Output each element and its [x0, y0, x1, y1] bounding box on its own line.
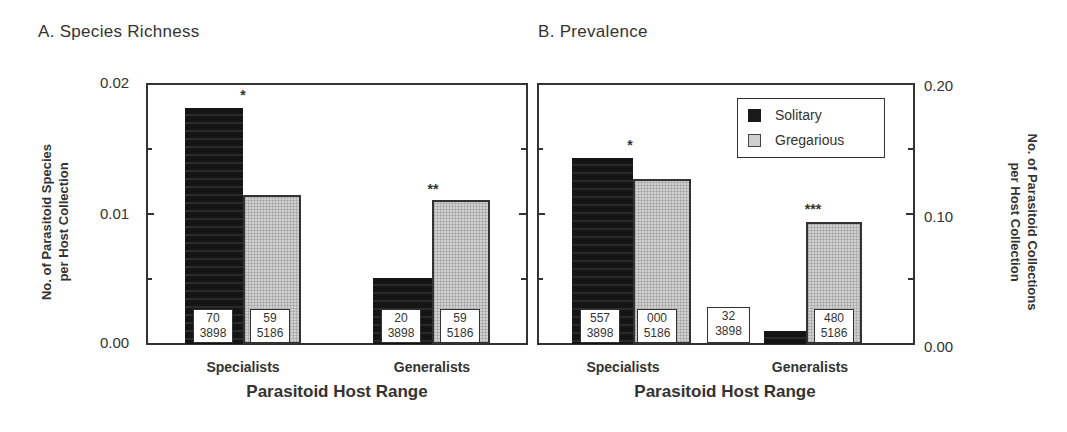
panel-a-tick [521, 278, 526, 280]
panel-a-count-label: 20 3898 [381, 309, 421, 343]
panel-b-ylabel-line2: per Host Collection [1007, 102, 1024, 342]
panel-b-ylabel-line1: No. of Parasitoid Collections [1024, 102, 1041, 342]
panel-a-ytick-mid: 0.01 [100, 205, 129, 222]
panel-b-tick [538, 213, 545, 215]
panel-a-tick [147, 213, 154, 215]
panel-b-y-axis-label: No. of Parasitoid Collections per Host C… [1007, 102, 1041, 342]
panel-b-significance-generalists: *** [793, 201, 833, 217]
count-numerator: 000 [638, 311, 676, 326]
count-denominator: 5186 [441, 326, 479, 341]
panel-a-tick [147, 278, 152, 280]
panel-a-count-label: 70 3898 [193, 309, 233, 343]
count-numerator: 59 [441, 311, 479, 326]
panel-a-tick [519, 213, 526, 215]
panel-b-ytick-max: 0.20 [924, 77, 953, 94]
panel-b-ytick-mid: 0.10 [924, 208, 953, 225]
count-denominator: 5186 [638, 326, 676, 341]
legend-item-solitary: Solitary [748, 107, 822, 123]
panel-b-significance-specialists: * [610, 137, 650, 153]
count-denominator: 3898 [382, 326, 420, 341]
panel-b-title: B. Prevalence [538, 22, 648, 42]
legend-item-gregarious: Gregarious [748, 132, 844, 148]
panel-a-significance-generalists: ** [413, 181, 453, 197]
panel-b-count-label: 557 3898 [580, 309, 620, 343]
count-denominator: 5186 [815, 326, 853, 341]
count-denominator: 3898 [194, 326, 232, 341]
panel-a-tick [147, 148, 152, 150]
panel-b-x-axis-label: Parasitoid Host Range [585, 382, 865, 402]
panel-b-tick [538, 278, 543, 280]
panel-b-count-label: 32 3898 [707, 307, 750, 343]
panel-b-tick [908, 278, 913, 280]
panel-a-ylabel-line2: per Host Collection [55, 122, 72, 322]
panel-a-category-generalists: Generalists [372, 359, 492, 375]
panel-a-ytick-max: 0.02 [100, 74, 129, 91]
legend-label-solitary: Solitary [775, 107, 822, 123]
panel-b-count-label: 000 5186 [637, 309, 677, 343]
count-numerator: 32 [708, 309, 749, 324]
panel-a-x-axis-label: Parasitoid Host Range [197, 382, 477, 402]
count-denominator: 5186 [251, 326, 289, 341]
gregarious-swatch-icon [748, 134, 761, 147]
panel-a-ylabel-line1: No. of Parasitoid Species [38, 122, 55, 322]
panel-b-tick [538, 148, 543, 150]
panel-a-significance-specialists: * [223, 87, 263, 103]
solitary-swatch-icon [748, 109, 761, 122]
count-numerator: 70 [194, 311, 232, 326]
panel-a-tick [521, 148, 526, 150]
panel-b-category-generalists: Generalists [750, 359, 870, 375]
panel-a-y-axis-label: No. of Parasitoid Species per Host Colle… [38, 122, 72, 322]
panel-a-count-label: 59 5186 [440, 309, 480, 343]
count-numerator: 557 [581, 311, 619, 326]
panel-a-count-label: 59 5186 [250, 309, 290, 343]
legend-label-gregarious: Gregarious [775, 132, 844, 148]
panel-b-ytick-min: 0.00 [924, 338, 953, 355]
count-denominator: 3898 [581, 326, 619, 341]
count-denominator: 3898 [708, 324, 749, 339]
count-numerator: 480 [815, 311, 853, 326]
panel-b-count-label: 480 5186 [814, 309, 854, 343]
panel-b-tick [908, 148, 913, 150]
panel-a-ytick-min: 0.00 [100, 334, 129, 351]
legend: Solitary Gregarious [737, 98, 885, 158]
panel-a-title: A. Species Richness [38, 22, 200, 42]
count-numerator: 59 [251, 311, 289, 326]
count-numerator: 20 [382, 311, 420, 326]
panel-a-category-specialists: Specialists [183, 359, 303, 375]
panel-b-tick [906, 213, 913, 215]
panel-b-category-specialists: Specialists [563, 359, 683, 375]
